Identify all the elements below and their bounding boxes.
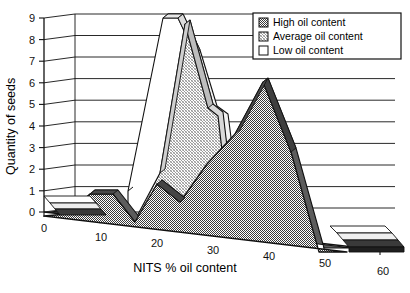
y-axis-ticks: 9 8 7 6 5 4 3 2 1 0 — [29, 12, 44, 218]
y-tick-label: 8 — [29, 34, 35, 46]
y-tick-label: 4 — [29, 120, 35, 132]
legend-label: Low oil content — [273, 44, 343, 56]
legend-label: Average oil content — [273, 30, 363, 42]
left-side-wall — [44, 14, 75, 212]
legend-swatch-average-oil-content — [259, 32, 268, 41]
x-tick-label: 20 — [151, 237, 163, 249]
x-tick-label: 30 — [207, 244, 219, 256]
y-tick-label: 3 — [29, 142, 35, 154]
y-tick-label: 7 — [29, 55, 35, 67]
y-tick-label: 1 — [29, 185, 35, 197]
legend-swatch-low-oil-content — [259, 46, 268, 55]
chart-legend: High oil content Average oil content Low… — [253, 13, 401, 59]
y-axis-title: Quantity of seeds — [4, 78, 18, 175]
chart-container: 9 8 7 6 5 4 3 2 1 0 Quantity of seeds 0 … — [0, 0, 410, 293]
legend-label: High oil content — [273, 16, 345, 28]
x-tick-label: 10 — [95, 231, 107, 243]
y-tick-label: 5 — [29, 98, 35, 110]
x-tick-label: 50 — [319, 257, 331, 269]
area-chart-3d: 9 8 7 6 5 4 3 2 1 0 Quantity of seeds 0 … — [0, 0, 410, 293]
x-tick-label: 40 — [263, 250, 275, 262]
x-tick-label: 0 — [41, 222, 47, 234]
y-tick-label: 6 — [29, 77, 35, 89]
x-axis-title: NITS % oil content — [133, 261, 237, 275]
x-tick-label: 60 — [377, 265, 389, 277]
y-tick-label: 0 — [29, 206, 35, 218]
y-tick-label: 9 — [29, 12, 35, 24]
legend-item-average-oil-content[interactable]: Average oil content — [259, 30, 363, 42]
y-tick-label: 2 — [29, 163, 35, 175]
legend-swatch-high-oil-content — [259, 18, 268, 27]
